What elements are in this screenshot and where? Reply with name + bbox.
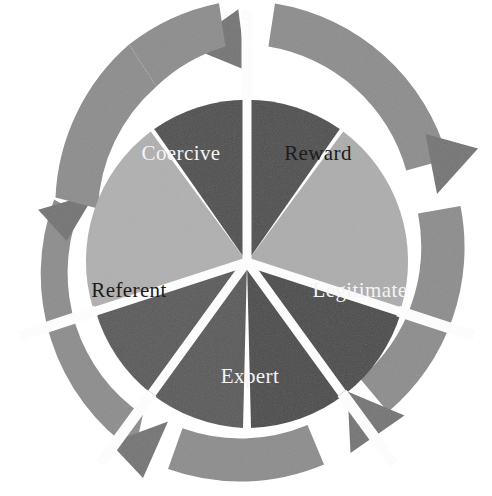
label-referent: Referent	[91, 278, 167, 302]
label-coercive: Coercive	[142, 141, 221, 165]
label-expert: Expert	[221, 364, 279, 388]
label-legitimate: Legitimate	[313, 278, 408, 302]
label-reward: Reward	[284, 141, 352, 165]
power-wheel-diagram: Reward Legitimate Expert Referent Coerci…	[0, 0, 492, 496]
wheel-canvas: Reward Legitimate Expert Referent Coerci…	[0, 0, 492, 496]
